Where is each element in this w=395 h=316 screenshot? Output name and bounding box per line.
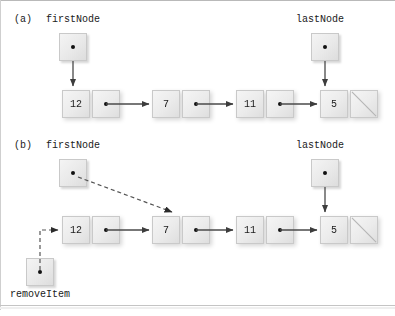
panel-b-removeitem-box: [26, 258, 54, 286]
pointer-dot-icon: [323, 45, 327, 49]
panel-a-node-12: 12: [62, 90, 120, 118]
frame-top-rule: [0, 0, 395, 1]
panel-b-node-11: 11: [236, 216, 294, 244]
panel-b-firstnode-box: [59, 159, 87, 187]
node-link-cell: [182, 216, 210, 244]
node-link-cell: [266, 90, 294, 118]
panel-a-firstnode-label: firstNode: [46, 14, 100, 25]
panel-b-node-7: 7: [152, 216, 210, 244]
panel-b-firstnode-label: firstNode: [46, 140, 100, 151]
panel-b-lastnode-box: [311, 159, 339, 187]
panel-b-label: (b): [14, 140, 32, 151]
node-null-link-cell: [350, 90, 378, 118]
panel-a-node-7: 7: [152, 90, 210, 118]
node-value-cell: 5: [320, 90, 348, 118]
linked-list-figure: (a) firstNode lastNode 12 7 11 5 (b): [0, 0, 395, 316]
frame-left-rule: [0, 0, 1, 310]
panel-b-node-12: 12: [62, 216, 120, 244]
node-value-cell: 7: [152, 90, 180, 118]
link-dot-icon: [194, 102, 198, 106]
null-slash-icon: [351, 91, 377, 117]
panel-a-firstnode-box: [59, 33, 87, 61]
pointer-dot-icon: [71, 45, 75, 49]
pointer-dot-icon: [323, 171, 327, 175]
link-dot-icon: [278, 102, 282, 106]
node-link-cell: [92, 216, 120, 244]
panel-a-node-11: 11: [236, 90, 294, 118]
node-link-cell: [92, 90, 120, 118]
panel-a-label: (a): [14, 14, 32, 25]
link-dot-icon: [194, 228, 198, 232]
pointer-dot-icon: [71, 171, 75, 175]
link-dot-icon: [278, 228, 282, 232]
pointer-dot-icon: [38, 270, 42, 274]
node-link-cell: [266, 216, 294, 244]
node-value-cell: 12: [62, 90, 90, 118]
panel-b-removeitem-label: removeItem: [10, 289, 70, 300]
panel-b-node-5: 5: [320, 216, 378, 244]
node-link-cell: [182, 90, 210, 118]
panel-a-node-5: 5: [320, 90, 378, 118]
link-dot-icon: [104, 228, 108, 232]
node-value-cell: 11: [236, 90, 264, 118]
null-slash-icon: [351, 217, 377, 243]
link-dot-icon: [104, 102, 108, 106]
node-value-cell: 7: [152, 216, 180, 244]
node-value-cell: 11: [236, 216, 264, 244]
panel-a-lastnode-label: lastNode: [296, 14, 344, 25]
node-value-cell: 12: [62, 216, 90, 244]
panel-a-lastnode-box: [311, 33, 339, 61]
panel-b-lastnode-label: lastNode: [296, 140, 344, 151]
node-null-link-cell: [350, 216, 378, 244]
node-value-cell: 5: [320, 216, 348, 244]
frame-bottom-rule: [0, 305, 395, 306]
arrow-b-firstnode-to-node7-dashed: [78, 177, 172, 212]
frame-bottom-rule-secondary: [0, 307, 395, 309]
